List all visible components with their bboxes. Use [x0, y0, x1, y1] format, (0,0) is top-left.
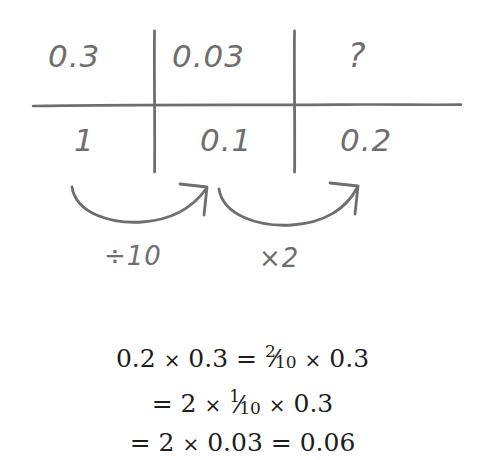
table-cell-top-2: 0.03 [172, 41, 245, 72]
eq1-fraction-denominator: 10 [275, 352, 297, 372]
arrow-1 [72, 184, 207, 222]
arrow-2-label-times-2: ×2 [259, 245, 299, 271]
arrow-1-curve [72, 187, 206, 222]
eq3-equals-2: = [271, 428, 292, 457]
eq2-operand-b: 0.3 [294, 390, 334, 419]
eq3-operand-a: 0.03 [207, 428, 263, 457]
arrow-2 [219, 183, 358, 225]
equation-line-1: 0.2 × 0.3 = 2⁄10 × 0.3 [0, 334, 485, 379]
eq1-fraction-2-over-10: 2⁄10 [265, 334, 297, 379]
eq1-times-2: × [305, 348, 322, 372]
table-cell-bottom-3: 0.2 [340, 125, 392, 156]
eq2-fraction-1-over-10: 1⁄10 [229, 379, 261, 424]
eq2-lhs: 2 [181, 390, 197, 419]
eq3-times-1: × [182, 432, 199, 456]
eq1-equals: = [236, 344, 257, 373]
eq1-times-1: × [164, 348, 181, 372]
equation-line-3: = 2 × 0.03 = 0.06 [0, 425, 485, 460]
arrow-2-curve [219, 188, 357, 225]
eq2-times-1: × [204, 394, 221, 418]
table-cell-bottom-2: 0.1 [200, 125, 252, 156]
eq3-equals-1: = [130, 428, 151, 457]
eq1-lhs: 0.2 [116, 344, 156, 373]
table-cell-top-3-question: ? [348, 39, 367, 72]
equation-block: 0.2 × 0.3 = 2⁄10 × 0.3 = 2 × 1⁄10 × 0.3 … [0, 334, 485, 460]
eq3-lhs: 2 [159, 428, 175, 457]
eq2-fraction-denominator: 10 [239, 398, 261, 418]
table-horizontal-rule [33, 105, 461, 106]
arrow-2-head [330, 183, 358, 214]
eq2-times-2: × [269, 394, 286, 418]
eq2-equals: = [152, 390, 173, 419]
eq1-operand-a: 0.3 [188, 344, 228, 373]
worksheet-page: 0.3 0.03 ? 1 0.1 0.2 ÷10 ×2 0.2 × 0.3 = … [0, 0, 485, 460]
table-cell-top-1: 0.3 [48, 41, 100, 72]
eq3-result: 0.06 [300, 428, 356, 457]
table-cell-bottom-1: 1 [74, 125, 95, 156]
arrow-1-label-divide-by-10: ÷10 [104, 243, 162, 269]
eq1-operand-b: 0.3 [329, 344, 369, 373]
equation-line-2: = 2 × 1⁄10 × 0.3 [0, 379, 485, 424]
